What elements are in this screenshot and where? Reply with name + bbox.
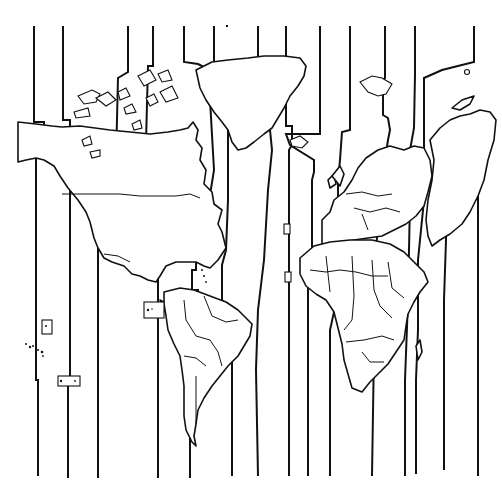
europe (322, 146, 432, 250)
asia (426, 96, 496, 246)
map-canvas (0, 0, 502, 498)
svalbard (360, 76, 392, 96)
africa (300, 240, 428, 392)
south-america (164, 288, 252, 446)
